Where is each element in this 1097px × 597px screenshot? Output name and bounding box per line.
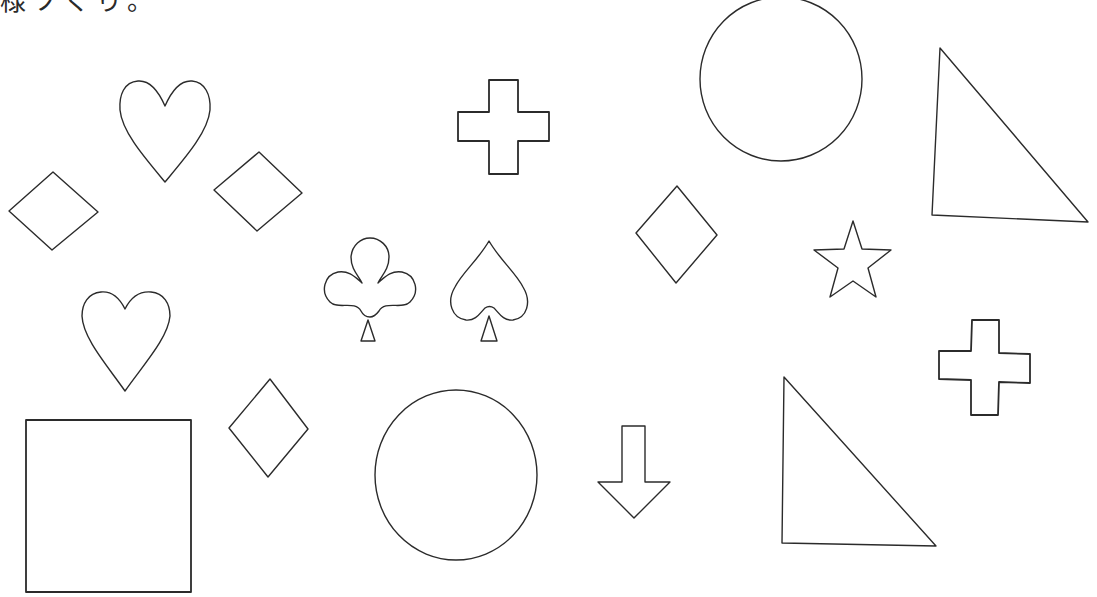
club-shape (324, 238, 415, 341)
arrow-down-shape (598, 426, 670, 518)
triangle-shape-1 (932, 48, 1088, 222)
circle-shape-1 (700, 0, 862, 161)
diamond-shape-3 (636, 186, 717, 283)
heart-shape-1 (120, 81, 210, 182)
heart-shape-2 (82, 292, 170, 391)
diamond-shape-1 (9, 172, 98, 250)
square-shape (26, 420, 191, 592)
spade-shape (451, 241, 528, 341)
circle-shape-2 (375, 390, 537, 560)
shapes-canvas (0, 0, 1097, 597)
cross-shape-2 (939, 320, 1030, 415)
diamond-shape-4 (229, 379, 308, 477)
diamond-shape-2 (214, 152, 302, 231)
star-shape (814, 221, 891, 297)
triangle-shape-2 (782, 377, 936, 546)
cross-shape-1 (458, 80, 549, 174)
